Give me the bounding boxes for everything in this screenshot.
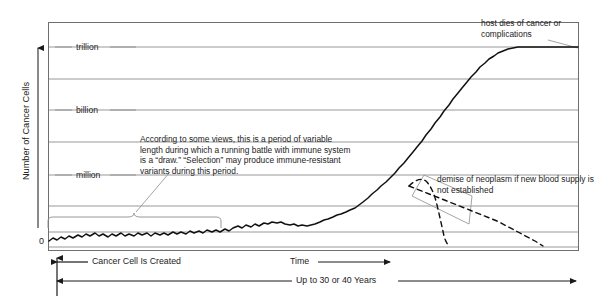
footer-duration-label: Up to 30 or 40 Years (296, 275, 376, 285)
origin-label: 0 (39, 236, 44, 246)
tick-label-million: million (76, 170, 100, 180)
figure-canvas: Number of Cancer Cells trillion billion … (0, 0, 604, 302)
tick-label-trillion: trillion (76, 42, 98, 52)
regression-branch-shallow (409, 186, 543, 246)
y-axis-label: Number of Cancer Cells (21, 71, 31, 191)
footer-time-label: Time (290, 256, 309, 266)
growth-period-brace (48, 213, 221, 228)
tick-label-billion: billion (76, 105, 98, 115)
annotation-host-dies: host dies of cancer or complications (481, 18, 601, 39)
annotation-regression: demise of neoplasm if new blood supply i… (437, 174, 597, 195)
footer-start-label: Cancer Cell Is Created (92, 256, 181, 266)
annotation-growth-period: According to some views, this is a perio… (140, 134, 355, 176)
